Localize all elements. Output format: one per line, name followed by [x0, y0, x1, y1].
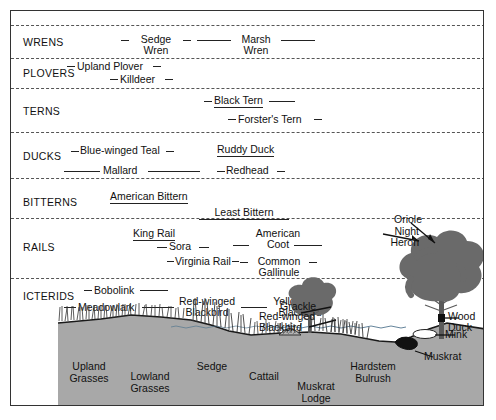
lowland-grasses-line2: Grasses [119, 383, 181, 395]
range-seg-upland-plover-right [153, 66, 161, 67]
species-mallard: Mallard [103, 165, 137, 177]
range-seg-sedge-wren-left [121, 40, 129, 41]
range-seg-marsh-wren-right [281, 40, 315, 41]
veg-label-muskrat-lodge: Muskrat Lodge [289, 381, 343, 404]
rw-right-line2: Blackbird [259, 322, 331, 333]
veg-label-cattail: Cattail [239, 371, 289, 383]
animal-label-mink: Mink [445, 329, 467, 341]
animal-label-muskrat: Muskrat [424, 351, 461, 363]
upland-grasses-line2: Grasses [59, 373, 119, 385]
species-forsters-tern: Forster's Tern [238, 114, 302, 126]
species-sedge-wren: Sedge Wren [131, 34, 181, 56]
diagram-frame: WRENS PLOVERS TERNS DUCKS BITTERNS RAILS… [10, 10, 484, 406]
species-sedge-wren-line2: Wren [131, 45, 181, 56]
species-marsh-wren-line2: Wren [233, 45, 279, 56]
veg-label-upland-grasses: Upland Grasses [59, 361, 119, 384]
group-label-wrens: WRENS [23, 36, 64, 48]
hardstem-line1: Hardstem [341, 361, 405, 373]
range-seg-sedge-wren-right [183, 40, 191, 41]
range-seg-upland-plover-left [67, 66, 75, 67]
muskrat-lodge-line1: Muskrat [289, 381, 343, 393]
divider-wrens-plovers [11, 58, 484, 59]
divider-plovers-terns [11, 88, 484, 89]
species-ruddy-duck: Ruddy Duck [217, 144, 274, 157]
range-seg-black-tern-right [269, 101, 295, 102]
range-seg-killdeer-left [110, 79, 118, 80]
divider-terns-ducks [11, 132, 484, 133]
species-blue-winged-teal: Blue-winged Teal [80, 145, 160, 157]
hardstem-line2: Bulrush [341, 373, 405, 385]
species-killdeer: Killdeer [120, 74, 155, 86]
muskrat-lodge-line2: Lodge [289, 393, 343, 405]
range-seg-forsters-tern-left [228, 119, 236, 120]
range-seg-killdeer-right [165, 79, 173, 80]
night-heron-line2: Heron [373, 237, 419, 248]
veg-label-sedge: Sedge [189, 361, 235, 373]
range-seg-mallard-left [64, 171, 100, 172]
animal-label-oriole: Oriole [394, 214, 422, 226]
group-label-ducks: DUCKS [23, 150, 61, 162]
range-seg-redhead-right [277, 171, 285, 172]
upland-grasses-line1: Upland [59, 361, 119, 373]
marsh-zonation-diagram: WRENS PLOVERS TERNS DUCKS BITTERNS RAILS… [0, 0, 496, 420]
range-seg-mallard-right [148, 171, 200, 172]
range-seg-marsh-wren-left [197, 40, 231, 41]
species-black-tern: Black Tern [214, 95, 263, 108]
animal-label-night-heron: Night Heron [373, 226, 419, 248]
range-seg-black-tern-left [204, 101, 212, 102]
range-seg-bw-teal-left [71, 151, 79, 152]
species-redhead: Redhead [226, 165, 269, 177]
veg-label-hardstem-bulrush: Hardstem Bulrush [341, 361, 405, 384]
mink-den [413, 330, 437, 339]
group-label-terns: TERNS [23, 105, 60, 117]
veg-label-lowland-grasses: Lowland Grasses [119, 371, 181, 394]
range-seg-forsters-tern-right [314, 119, 322, 120]
lowland-grasses-line1: Lowland [119, 371, 181, 383]
species-marsh-wren: Marsh Wren [233, 34, 279, 56]
divider-top [11, 25, 484, 26]
species-upland-plover: Upland Plover [77, 61, 143, 73]
group-label-plovers: PLOVERS [23, 67, 75, 79]
wood-duck-cavity [438, 314, 445, 322]
animal-label-red-winged-blackbird-right: Red-winged Blackbird [259, 311, 331, 333]
range-seg-redhead-left [217, 171, 225, 172]
divider-ducks-bitterns [11, 178, 484, 179]
range-seg-bw-teal-right [166, 151, 174, 152]
